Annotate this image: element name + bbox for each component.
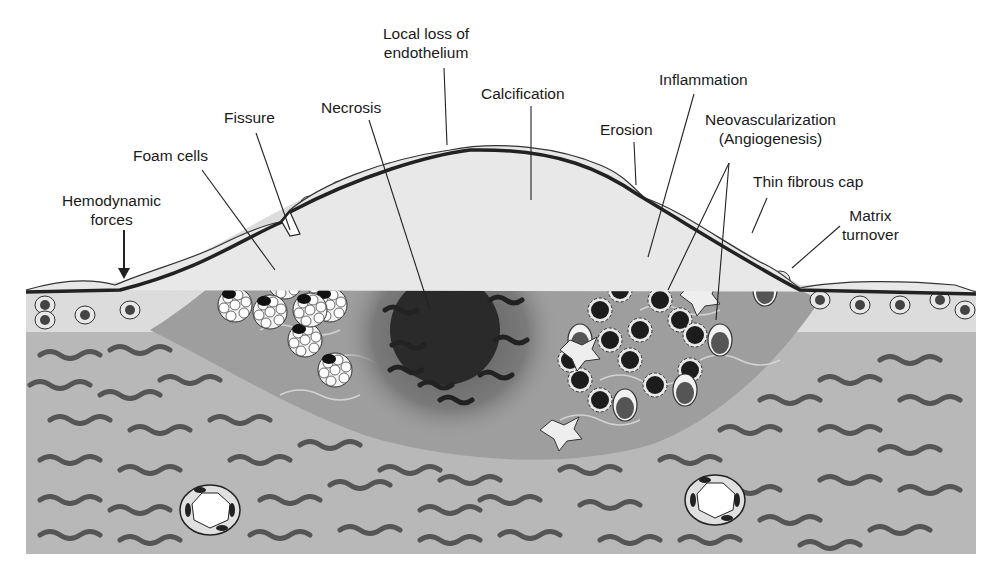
label-matrix-turnover: Matrix turnover — [842, 206, 899, 244]
label-neovascularization: Neovascularization (Angiogenesis) — [705, 110, 836, 148]
label-fissure: Fissure — [224, 108, 275, 127]
label-local-loss-endothelium: Local loss of endothelium — [383, 24, 469, 62]
label-necrosis: Necrosis — [321, 98, 381, 117]
microvessel-right — [685, 475, 745, 525]
label-calcification: Calcification — [481, 84, 565, 103]
label-hemodynamic-forces: Hemodynamic forces — [62, 191, 161, 229]
label-erosion: Erosion — [600, 120, 653, 139]
microvessel-left — [180, 485, 240, 535]
plaque-diagram: Hemodynamic forces Foam cells Fissure Ne… — [0, 0, 1007, 577]
label-foam-cells: Foam cells — [133, 146, 208, 165]
label-inflammation: Inflammation — [659, 70, 748, 89]
label-thin-fibrous-cap: Thin fibrous cap — [753, 172, 863, 191]
endothelial-surface — [26, 146, 976, 292]
